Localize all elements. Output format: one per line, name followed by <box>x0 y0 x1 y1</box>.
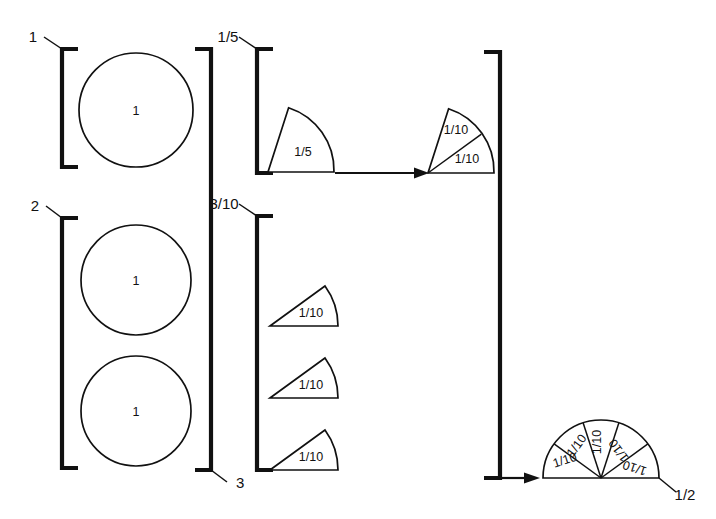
semicircle-one-half-leader <box>659 478 676 492</box>
bracket-whole-one-shape <box>62 49 78 167</box>
bracket-whole-two-label: 2 <box>31 197 39 214</box>
bracket-total-three-label: 3 <box>236 474 244 491</box>
sector-tenth-a: 1/10 <box>270 286 338 326</box>
bracket-one-fifth-label: 1/5 <box>218 28 239 45</box>
semicircle-one-half: 1/10 1/10 1/10 1/10 1/10 1/2 <box>543 420 695 503</box>
sector-tenth-a-label: 1/10 <box>299 306 323 320</box>
sector-fifth-split-label-lower: 1/10 <box>455 152 479 166</box>
bracket-whole-two: 2 <box>31 197 78 468</box>
sector-one-fifth-label: 1/5 <box>294 145 311 159</box>
sector-fifth-split-label-upper: 1/10 <box>444 123 468 137</box>
sector-tenth-b-label: 1/10 <box>299 378 323 392</box>
whole-circle-one: 1 <box>79 53 193 167</box>
whole-circle-three-label: 1 <box>133 405 140 419</box>
bracket-one-fifth: 1/5 <box>218 28 273 173</box>
arrow-fifth-to-tenths-head <box>414 168 429 179</box>
semicircle-one-half-label: 1/2 <box>675 486 696 503</box>
sector-tenth-b: 1/10 <box>270 358 338 398</box>
whole-circle-two-label: 1 <box>133 274 140 288</box>
sector-one-fifth: 1/5 <box>268 108 334 172</box>
sector-fifth-split: 1/10 1/10 <box>428 109 494 173</box>
bracket-one-fifth-leader <box>239 37 257 49</box>
bracket-whole-two-shape <box>62 218 78 468</box>
whole-circle-two: 1 <box>81 225 191 335</box>
sector-one-fifth-shape <box>268 108 334 172</box>
arrow-fifth-to-tenths <box>335 168 429 179</box>
diagram-svg: 1 1 2 1 1 3 <box>0 0 716 519</box>
bracket-total-three: 3 <box>195 49 244 491</box>
bracket-whole-one-leader <box>44 37 62 49</box>
sector-tenth-c: 1/10 <box>270 430 338 470</box>
bracket-whole-one: 1 <box>29 28 78 167</box>
bracket-sum-result <box>484 52 500 478</box>
bracket-one-fifth-shape <box>257 49 273 173</box>
semicircle-wedge-label-3: 1/10 <box>590 430 604 454</box>
arrow-sum-to-half-head <box>524 473 540 484</box>
arrow-sum-to-half <box>500 473 540 484</box>
bracket-three-tenths: 3/10 <box>209 195 273 470</box>
bracket-total-three-leader <box>211 470 227 482</box>
whole-circle-three: 1 <box>81 356 191 466</box>
sector-tenth-c-label: 1/10 <box>299 450 323 464</box>
bracket-whole-two-leader <box>46 206 62 218</box>
bracket-total-three-shape <box>195 49 211 470</box>
bracket-sum-result-shape <box>484 52 500 478</box>
bracket-whole-one-label: 1 <box>29 28 37 45</box>
figure-canvas: 1 1 2 1 1 3 <box>0 0 716 519</box>
whole-circle-one-label: 1 <box>133 104 140 118</box>
bracket-three-tenths-shape <box>257 216 273 470</box>
bracket-three-tenths-label: 3/10 <box>209 195 238 212</box>
bracket-three-tenths-leader <box>239 204 257 216</box>
